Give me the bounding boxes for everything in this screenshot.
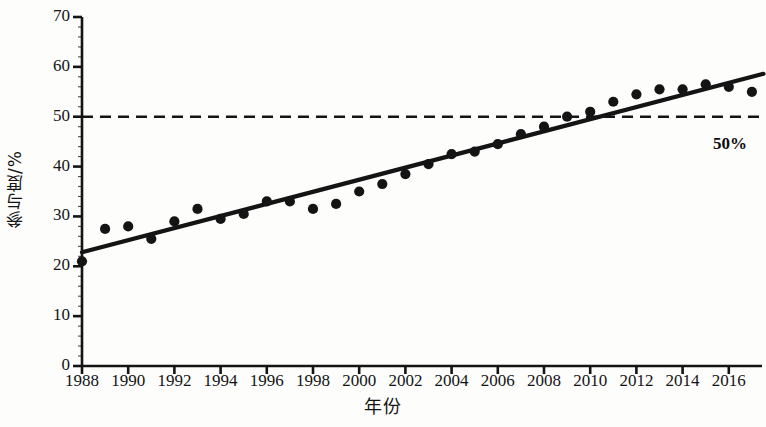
reference-line-label: 50% [713,134,747,154]
data-point [539,122,549,132]
data-point [631,89,641,99]
y-tick-label: 60 [0,56,70,76]
y-tick-label: 70 [0,6,70,26]
data-point [262,196,272,206]
x-tick-label: 1992 [151,371,197,391]
data-point [377,179,387,189]
data-point [77,256,87,266]
data-point [470,147,480,157]
data-point [747,87,757,97]
data-point [654,84,664,94]
data-point [608,97,618,107]
x-tick-label: 2006 [475,371,521,391]
data-point [239,209,249,219]
data-point [562,112,572,122]
data-point [285,196,295,206]
data-point [123,221,133,231]
x-tick-label: 1998 [290,371,336,391]
data-point [724,82,734,92]
data-point [331,199,341,209]
data-point [308,204,318,214]
x-axis-title: 年份 [0,392,766,418]
x-tick-label: 2004 [429,371,475,391]
data-point [423,159,433,169]
x-tick-label: 1988 [59,371,105,391]
data-point [169,216,179,226]
data-point [447,149,457,159]
x-tick-label: 2002 [382,371,428,391]
x-tick-label: 2014 [660,371,706,391]
data-point [400,169,410,179]
chart-plot-area [0,0,766,427]
data-point [216,214,226,224]
data-point [701,79,711,89]
x-tick-label: 1996 [244,371,290,391]
data-point [100,224,110,234]
chart-container: 010203040506070 198819901992199419961998… [0,0,766,427]
y-axis-ticks [73,17,82,366]
data-point [585,107,595,117]
data-point [493,139,503,149]
y-tick-label: 50 [0,106,70,126]
x-tick-label: 1990 [105,371,151,391]
data-point [192,204,202,214]
axes [82,17,762,366]
data-point [354,186,364,196]
data-point [516,129,526,139]
y-axis-title: 参与度/% [6,150,32,228]
y-tick-label: 10 [0,305,70,325]
x-tick-label: 2008 [521,371,567,391]
x-tick-label: 2000 [336,371,382,391]
data-point [146,234,156,244]
x-tick-label: 2016 [706,371,752,391]
trend-line [82,74,763,252]
x-tick-label: 2010 [567,371,613,391]
y-tick-label: 20 [0,255,70,275]
data-points [77,79,757,266]
x-tick-label: 2012 [613,371,659,391]
x-tick-label: 1994 [198,371,244,391]
data-point [678,84,688,94]
